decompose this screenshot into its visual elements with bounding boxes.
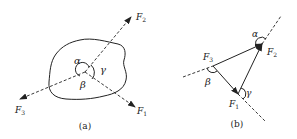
force-line-f3 — [20, 72, 85, 99]
figure-a: α γ β F2 F3 F1 (a) — [14, 12, 147, 131]
angle-label-beta-b: β — [204, 76, 211, 87]
force-label-f2: F2 — [135, 12, 146, 23]
force-label-f3: F3 — [14, 105, 25, 116]
vector-f3-to-f1 — [213, 66, 238, 94]
force-label-f2-b: F2 — [266, 47, 277, 58]
force-diagram: α γ β F2 F3 F1 (a) α β γ F3 F2 F1 (b) — [0, 0, 297, 139]
force-line-f1 — [85, 72, 135, 107]
force-label-f3-b: F3 — [202, 52, 213, 63]
vector-f3-to-f2 — [213, 44, 262, 66]
extension-line-f2 — [262, 16, 281, 44]
rigid-body-outline — [49, 39, 127, 99]
angle-label-gamma-b: γ — [246, 88, 252, 98]
angle-label-beta: β — [79, 79, 86, 90]
vector-f1-to-f2 — [238, 44, 262, 94]
figure-b: α β γ F3 F2 F1 (b) — [183, 16, 281, 129]
angle-arc-gamma — [91, 65, 94, 79]
caption-b: (b) — [231, 119, 244, 129]
angle-label-alpha-b: α — [252, 29, 258, 39]
force-label-f1-b: F1 — [228, 99, 239, 110]
caption-a: (a) — [79, 121, 91, 131]
angle-label-alpha: α — [74, 55, 81, 66]
force-label-f1: F1 — [136, 106, 147, 117]
angle-label-gamma: γ — [100, 64, 106, 75]
extension-line-f1 — [238, 94, 265, 121]
